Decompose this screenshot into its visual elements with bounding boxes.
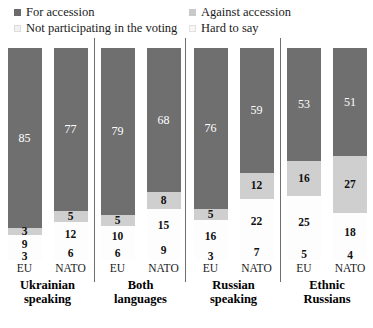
legend-item-against-accession: Against accession xyxy=(188,6,291,19)
chart-legend: For accession Against accession Not part… xyxy=(0,0,373,38)
chart-group: 7651635912227EUNATORussianspeaking xyxy=(186,38,281,328)
segment-value-label: 5 xyxy=(301,249,307,260)
bar-segment-for: 79 xyxy=(101,48,135,215)
segment-value-label: 15 xyxy=(158,220,170,231)
bar-segment-not-participating: 18 xyxy=(333,213,367,251)
stacked-bar[interactable]: 775126 xyxy=(54,48,88,260)
tick-label-eu: EU xyxy=(8,261,42,276)
segment-value-label: 16 xyxy=(205,231,217,242)
bar-segment-for: 85 xyxy=(8,48,42,228)
bar-segment-for: 53 xyxy=(287,48,321,161)
bar-segment-hard-to-say: 6 xyxy=(54,247,88,260)
segment-value-label: 7 xyxy=(254,247,260,258)
segment-value-label: 59 xyxy=(251,105,263,116)
tick-label-eu: EU xyxy=(194,261,228,276)
group-label-line1: Ethnic xyxy=(309,278,344,292)
tick-label-nato: NATO xyxy=(333,261,367,276)
stacked-bar[interactable]: 765163 xyxy=(194,48,228,260)
stacked-bar[interactable]: 5912227 xyxy=(240,48,274,260)
segment-value-label: 5 xyxy=(208,209,214,220)
group-label-line2: languages xyxy=(95,292,186,306)
bar-segment-not-participating: 12 xyxy=(54,222,88,247)
group-label: Bothlanguages xyxy=(95,276,186,306)
legend-item-not-participating: Not participating in the voting xyxy=(0,22,188,35)
stacked-bar[interactable]: 5127184 xyxy=(333,48,367,260)
legend-row-2: Not participating in the voting Hard to … xyxy=(0,20,373,36)
segment-value-label: 53 xyxy=(298,99,310,110)
segment-value-label: 6 xyxy=(115,248,121,259)
legend-swatch-hard-to-say xyxy=(189,25,196,32)
chart-plot-area: 85393775126EUNATOUkrainianspeaking795106… xyxy=(0,38,373,328)
segment-value-label: 3 xyxy=(208,251,214,262)
segment-value-label: 51 xyxy=(344,97,356,108)
group-tick-labels: EUNATO xyxy=(95,260,186,276)
segment-value-label: 9 xyxy=(22,239,28,250)
tick-label-nato: NATO xyxy=(147,261,181,276)
bar-segment-hard-to-say: 3 xyxy=(8,254,42,260)
bar-segment-against: 5 xyxy=(194,209,228,220)
segment-value-label: 18 xyxy=(344,227,356,238)
segment-value-label: 76 xyxy=(205,123,217,134)
bar-segment-hard-to-say: 5 xyxy=(287,249,321,260)
tick-label-nato: NATO xyxy=(54,261,88,276)
bar-segment-for: 68 xyxy=(147,48,181,192)
bar-segment-hard-to-say: 9 xyxy=(147,241,181,260)
group-label: Russianspeaking xyxy=(186,276,281,306)
bar-segment-against: 27 xyxy=(333,156,367,213)
bar-segment-against: 5 xyxy=(54,211,88,222)
bar-segment-against: 16 xyxy=(287,161,321,195)
legend-label-hard-to-say: Hard to say xyxy=(201,22,259,35)
stacked-bar[interactable]: 795106 xyxy=(101,48,135,260)
segment-value-label: 3 xyxy=(22,251,28,262)
segment-value-label: 85 xyxy=(19,133,31,144)
chart-group: 53162555127184EUNATOEthnicRussians xyxy=(281,38,373,328)
segment-value-label: 9 xyxy=(161,245,167,256)
stacked-bar[interactable]: 85393 xyxy=(8,48,42,260)
segment-value-label: 27 xyxy=(344,179,356,190)
legend-label-against-accession: Against accession xyxy=(201,6,291,19)
group-label-line1: Ukrainian xyxy=(20,278,75,292)
bar-segment-for: 51 xyxy=(333,48,367,156)
group-label: Ukrainianspeaking xyxy=(0,276,95,306)
bar-segment-hard-to-say: 3 xyxy=(194,254,228,260)
legend-label-for-accession: For accession xyxy=(26,6,94,19)
bar-segment-hard-to-say: 7 xyxy=(240,245,274,260)
legend-item-hard-to-say: Hard to say xyxy=(188,22,259,35)
stacked-bar[interactable]: 5316255 xyxy=(287,48,321,260)
segment-value-label: 79 xyxy=(112,126,124,137)
chart-group: 85393775126EUNATOUkrainianspeaking xyxy=(0,38,95,328)
segment-value-label: 10 xyxy=(112,231,124,242)
tick-label-eu: EU xyxy=(287,261,321,276)
legend-item-for-accession: For accession xyxy=(0,6,188,19)
group-tick-labels: EUNATO xyxy=(281,260,373,276)
bar-segment-for: 76 xyxy=(194,48,228,209)
chart-group: 795106688159EUNATOBothlanguages xyxy=(95,38,186,328)
bar-segment-for: 77 xyxy=(54,48,88,211)
segment-value-label: 25 xyxy=(298,217,310,228)
bar-segment-against: 5 xyxy=(101,215,135,226)
group-label-line2: Russians xyxy=(281,292,373,306)
bar-segment-not-participating: 10 xyxy=(101,226,135,247)
bar-segment-not-participating: 25 xyxy=(287,196,321,250)
legend-label-not-participating: Not participating in the voting xyxy=(26,22,177,35)
group-label-line2: speaking xyxy=(186,292,281,306)
bar-segment-not-participating: 15 xyxy=(147,209,181,241)
stacked-bar[interactable]: 688159 xyxy=(147,48,181,260)
legend-swatch-against-accession xyxy=(189,9,196,16)
tick-label-eu: EU xyxy=(101,261,135,276)
legend-swatch-for-accession xyxy=(14,9,21,16)
segment-value-label: 22 xyxy=(251,216,263,227)
segment-value-label: 6 xyxy=(68,248,74,259)
segment-value-label: 16 xyxy=(298,173,310,184)
group-bars: 795106688159 xyxy=(95,38,186,260)
group-bars: 53162555127184 xyxy=(281,38,373,260)
bar-segment-hard-to-say: 4 xyxy=(333,252,367,260)
group-tick-labels: EUNATO xyxy=(186,260,281,276)
segment-value-label: 4 xyxy=(347,250,353,261)
bar-segment-hard-to-say: 6 xyxy=(101,247,135,260)
chart-groups: 85393775126EUNATOUkrainianspeaking795106… xyxy=(0,38,373,328)
tick-label-nato: NATO xyxy=(240,261,274,276)
bar-segment-not-participating: 22 xyxy=(240,199,274,246)
bar-segment-not-participating: 16 xyxy=(194,220,228,254)
segment-value-label: 77 xyxy=(65,124,77,135)
